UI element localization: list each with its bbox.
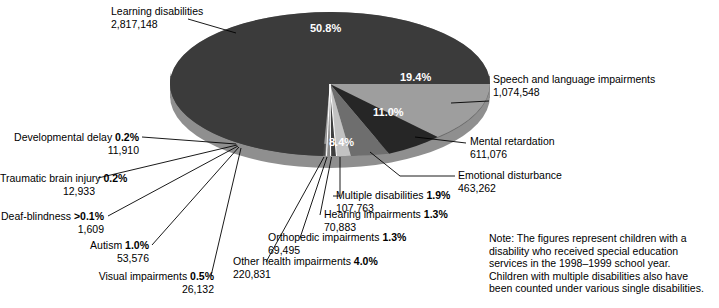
label-traumatic-brain-injury: Traumatic brain injury 0.2% 12,933 (0, 172, 95, 197)
label-visual-impairments: Visual impairments 0.5% 26,132 (74, 270, 214, 295)
label-visual-pct: 0.5% (190, 270, 214, 282)
label-tbi-count: 12,933 (63, 185, 95, 197)
slice-pct-emotional: 8.4% (329, 136, 354, 148)
label-hearing-name: Hearing impairments (324, 208, 421, 220)
label-multiple-pct: 1.9% (426, 189, 450, 201)
label-other-health-impairments: Other health impairments 4.0% 220,831 (233, 255, 378, 280)
label-autism-pct: 1.0% (125, 239, 149, 251)
label-visual-count: 26,132 (182, 283, 214, 295)
label-autism: Autism 1.0% 53,576 (16, 239, 149, 264)
label-autism-name: Autism (90, 239, 122, 251)
label-speech-name: Speech and language impairments (493, 73, 655, 85)
label-deafblind-count: 1,609 (78, 223, 104, 235)
label-otherhealth-pct: 4.0% (354, 255, 378, 267)
label-learning-disabilities: Learning disabilities 2,817,148 (111, 5, 203, 30)
label-devdelay-name: Developmental delay (14, 131, 112, 143)
label-emotional-disturbance: Emotional disturbance 463,262 (458, 169, 562, 194)
label-speech-language: Speech and language impairments 1,074,54… (493, 73, 655, 98)
chart-note: Note: The figures represent children wit… (489, 232, 707, 295)
label-orthopedic-count: 69,495 (268, 244, 300, 256)
label-autism-count: 53,576 (117, 252, 149, 264)
label-emotional-count: 463,262 (458, 182, 496, 194)
label-tbi-pct: 0.2% (103, 172, 127, 184)
label-deafblind-name: Deaf-blindness (1, 210, 71, 222)
label-hearing-pct: 1.3% (424, 208, 448, 220)
label-deafblind-pct: >0.1% (74, 210, 104, 222)
slice-pct-learning: 50.8% (310, 22, 341, 34)
label-orthopedic-name: Orthopedic impairments (268, 231, 379, 243)
label-orthopedic-pct: 1.3% (382, 231, 406, 243)
label-otherhealth-name: Other health impairments (233, 255, 351, 267)
label-speech-count: 1,074,548 (493, 86, 540, 98)
label-multiple-name: Multiple disabilities (336, 189, 424, 201)
label-otherhealth-count: 220,831 (233, 268, 271, 280)
label-devdelay-count: 11,910 (108, 144, 139, 156)
label-mental-count: 611,076 (470, 148, 507, 160)
label-deaf-blindness: Deaf-blindness >0.1% 1,609 (0, 210, 104, 235)
label-mental-name: Mental retardation (470, 135, 555, 147)
label-emotional-name: Emotional disturbance (458, 169, 562, 181)
slice-pct-mental: 11.0% (373, 106, 404, 118)
label-orthopedic-impairments: Orthopedic impairments 1.3% 69,495 (268, 231, 406, 256)
slice-pct-speech: 19.4% (400, 71, 431, 83)
label-hearing-impairments: Hearing impairments 1.3% 70,883 (324, 208, 448, 233)
pie-chart-figure: 50.8% 19.4% 11.0% 8.4% Learning disabili… (0, 0, 719, 308)
label-learning-name: Learning disabilities (111, 5, 203, 17)
label-learning-count: 2,817,148 (111, 18, 158, 30)
label-visual-name: Visual impairments (99, 270, 188, 282)
label-developmental-delay: Developmental delay 0.2% 11,910 (0, 131, 139, 156)
label-tbi-name: Traumatic brain injury (0, 172, 101, 184)
label-mental-retardation: Mental retardation 611,076 (470, 135, 555, 160)
label-devdelay-pct: 0.2% (115, 131, 139, 143)
